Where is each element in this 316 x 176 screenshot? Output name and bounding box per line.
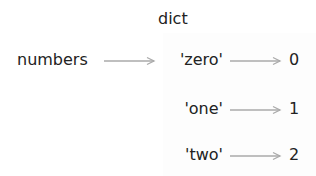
arrows-layer (0, 0, 316, 176)
arrow-variable-to-dict-icon (104, 58, 154, 65)
arrow-one-icon (230, 107, 280, 114)
arrow-zero-icon (230, 58, 280, 65)
arrow-two-icon (230, 153, 280, 160)
